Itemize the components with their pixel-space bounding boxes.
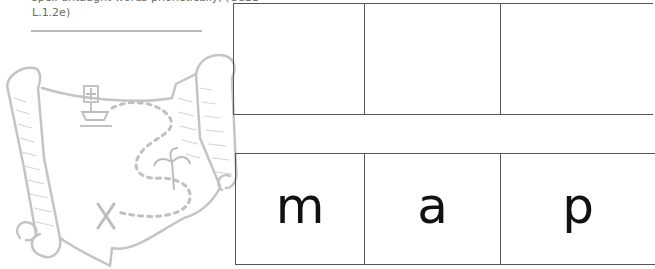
letter-m: m (276, 181, 325, 231)
standard-reference: L.1.2e) (32, 6, 70, 19)
letter-p: p (562, 181, 594, 231)
instruction-text-cut: spell untaught words phonetically, (CCSS (32, 0, 259, 4)
divider-rule (31, 30, 202, 32)
letter-box-row-bottom: m a p (235, 153, 655, 265)
letter-box-top-2[interactable] (364, 4, 500, 114)
treasure-map-scroll-icon (0, 38, 240, 269)
letter-box-bottom-2: a (364, 154, 500, 264)
letter-box-top-3[interactable] (500, 4, 653, 114)
letter-a: a (417, 181, 448, 231)
letter-box-row-top (233, 3, 653, 115)
letter-box-bottom-1: m (235, 154, 364, 264)
letter-box-top-1[interactable] (233, 4, 364, 114)
letter-box-bottom-3: p (500, 154, 655, 264)
